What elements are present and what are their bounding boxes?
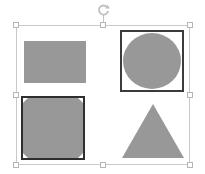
handle-bottom-center[interactable]	[100, 162, 106, 168]
handle-top-right[interactable]	[187, 22, 193, 28]
handle-top-left[interactable]	[13, 22, 19, 28]
rotate-icon[interactable]	[96, 3, 111, 18]
handle-bottom-left[interactable]	[13, 162, 19, 168]
handle-middle-right[interactable]	[187, 92, 193, 98]
shape-selection-canvas	[0, 0, 205, 174]
handle-top-center[interactable]	[100, 22, 106, 28]
handle-middle-left[interactable]	[13, 92, 19, 98]
selection-frame[interactable]	[16, 25, 190, 165]
handle-bottom-right[interactable]	[187, 162, 193, 168]
